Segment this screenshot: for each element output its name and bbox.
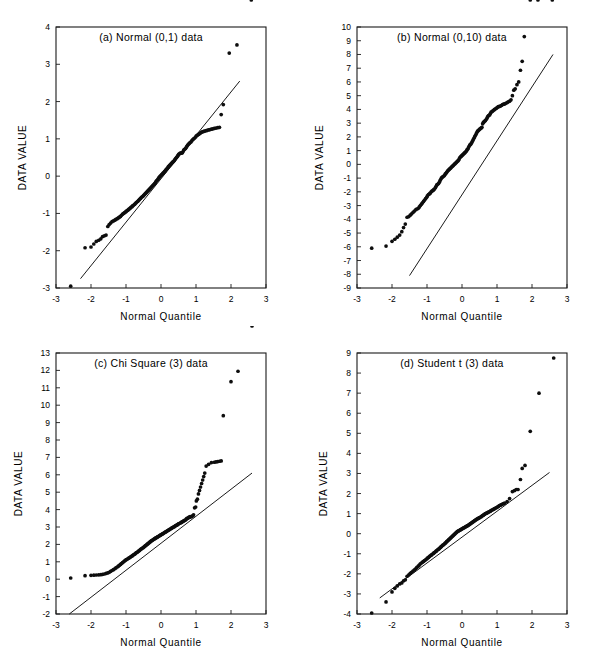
data-point: [384, 244, 388, 248]
y-tick-label: 5: [45, 487, 50, 497]
y-tick-label: -4: [343, 609, 351, 619]
y-tick-label: 4: [45, 22, 50, 32]
data-point: [83, 246, 87, 250]
data-point: [199, 485, 203, 489]
y-tick-label: 8: [346, 49, 351, 59]
data-point: [384, 600, 388, 604]
data-point: [370, 246, 374, 250]
x-tick-label: -3: [52, 620, 60, 630]
y-tick-label: 6: [346, 77, 351, 87]
y-tick-label: 6: [45, 470, 50, 480]
x-tick-label: -3: [353, 294, 361, 304]
qq-plot-figure: -3-2-101234-3-2-10123(a) Normal (0,1) da…: [0, 0, 601, 652]
y-tick-label: 11: [41, 383, 50, 393]
y-tick-label: 2: [45, 539, 50, 549]
data-point: [249, 0, 253, 2]
x-tick-label: 0: [460, 294, 465, 304]
plot-frame: [357, 353, 567, 614]
reference-line: [69, 473, 252, 614]
y-tick-label: -1: [343, 549, 351, 559]
y-tick-label: 7: [346, 388, 351, 398]
data-point: [552, 356, 556, 360]
data-point: [235, 43, 239, 47]
data-point: [250, 326, 254, 328]
data-point: [402, 226, 406, 230]
y-tick-label: 9: [45, 418, 50, 428]
y-tick-label: 3: [45, 522, 50, 532]
y-tick-label: 8: [45, 435, 50, 445]
data-point: [229, 380, 233, 384]
y-tick-label: 5: [346, 428, 351, 438]
x-axis-label: Normal Quantile: [120, 637, 201, 648]
x-tick-label: -2: [87, 294, 95, 304]
x-tick-label: 3: [565, 294, 570, 304]
y-tick-label: 2: [346, 489, 351, 499]
panel-title: (c) Chi Square (3) data: [94, 357, 208, 369]
data-point: [403, 578, 407, 582]
y-tick-label: -2: [343, 569, 351, 579]
data-point: [516, 488, 520, 492]
data-point: [398, 233, 402, 237]
data-point: [519, 478, 523, 482]
y-tick-label: -2: [42, 609, 50, 619]
y-tick-label: 7: [45, 452, 50, 462]
data-point: [550, 0, 554, 2]
x-tick-label: 0: [159, 620, 164, 630]
x-tick-label: -1: [423, 294, 431, 304]
y-tick-label: 6: [346, 408, 351, 418]
x-tick-label: 1: [194, 620, 199, 630]
y-tick-label: 10: [41, 400, 51, 410]
data-point: [519, 68, 523, 72]
y-tick-label: 1: [45, 134, 50, 144]
panel-title: (a) Normal (0,1) data: [99, 31, 203, 43]
y-tick-label: 0: [346, 529, 351, 539]
qq-panel-b: -9-8-7-6-5-4-3-2-1012345678910-3-2-10123…: [301, 0, 601, 326]
x-axis-label: Normal Quantile: [421, 637, 502, 648]
qq-panel-a: -3-2-101234-3-2-10123(a) Normal (0,1) da…: [0, 0, 300, 326]
x-tick-label: 1: [495, 620, 500, 630]
data-point: [69, 576, 73, 580]
y-axis-label: DATA VALUE: [17, 125, 28, 190]
x-tick-label: -1: [122, 294, 130, 304]
reference-line: [410, 54, 554, 275]
y-axis-label: DATA VALUE: [314, 125, 325, 190]
y-tick-label: -8: [343, 269, 351, 279]
data-point: [480, 125, 484, 129]
y-axis-label: DATA VALUE: [13, 451, 24, 516]
qq-panel-d: -4-3-2-10123456789-3-2-10123(d) Student …: [301, 326, 601, 652]
x-tick-label: -2: [388, 620, 396, 630]
y-tick-label: -2: [42, 246, 50, 256]
data-point: [200, 482, 204, 486]
data-point: [227, 51, 231, 55]
y-tick-label: 3: [346, 468, 351, 478]
data-point: [523, 464, 527, 468]
data-point: [390, 590, 394, 594]
x-tick-label: 3: [264, 620, 269, 630]
x-tick-label: 0: [159, 294, 164, 304]
y-tick-label: 1: [346, 509, 351, 519]
data-point: [536, 0, 540, 2]
data-point: [104, 233, 108, 237]
y-tick-label: -3: [42, 283, 50, 293]
data-point: [194, 505, 198, 509]
data-point: [520, 467, 524, 471]
data-point: [520, 59, 524, 63]
data-point: [537, 391, 541, 395]
y-tick-label: 9: [346, 348, 351, 358]
data-point: [218, 125, 222, 129]
data-point: [202, 475, 206, 479]
data-point: [509, 98, 513, 102]
y-tick-label: 10: [342, 22, 352, 32]
x-tick-label: -3: [353, 620, 361, 630]
data-point: [219, 459, 223, 463]
data-point: [196, 497, 200, 501]
y-tick-label: 12: [41, 365, 51, 375]
x-axis-label: Normal Quantile: [421, 311, 502, 322]
data-point: [508, 497, 512, 501]
y-tick-label: -1: [42, 208, 50, 218]
data-point: [370, 611, 374, 615]
x-tick-label: 3: [264, 294, 269, 304]
data-point: [528, 0, 532, 2]
y-tick-label: 0: [346, 159, 351, 169]
plot-frame: [56, 353, 266, 614]
